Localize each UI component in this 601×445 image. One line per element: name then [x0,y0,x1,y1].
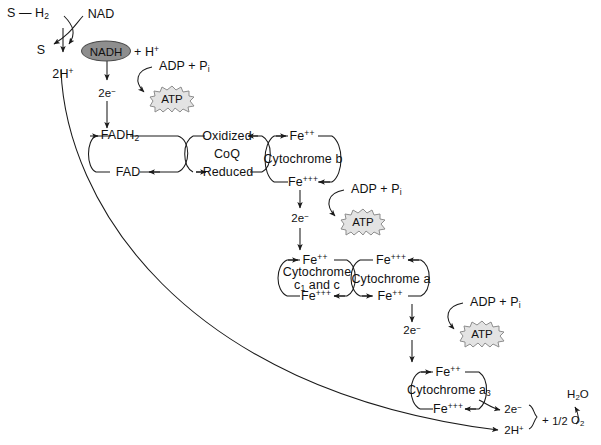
etc-diagram-canvas: S — H2 NAD S NADH + H+ 2H+ 2e− ADP + Pi … [0,0,601,445]
label-nad: NAD [88,8,115,21]
label-adp-pi-3: ADP + Pi [470,296,521,309]
atp-label-1: ATP [150,86,194,112]
label-half-oxygen: + 1/2 O2 [542,415,585,428]
label-2e-final: 2e− [504,404,522,416]
curve-coq-left [185,136,193,172]
label-plus-h: + H+ [134,45,159,58]
label-coq: CoQ [214,148,240,161]
curve-2h-plus-to-terminal [61,70,498,430]
label-cytochrome-c-line1: Cytochrome [283,266,351,279]
label-coq-reduced: Reduced [203,166,254,179]
label-water: H2O [567,389,589,402]
nadh-badge: NADH [81,41,131,62]
atp-badge-2: ATP [341,209,385,235]
label-cyta-fe3: Fe+++ [376,253,406,266]
label-2h-plus-top: 2H+ [52,67,73,80]
label-cytochrome-b: Cytochrome b [263,153,342,166]
label-cytc-fe3: Fe+++ [301,289,331,302]
label-cyta3-fe3: Fe+++ [433,402,463,415]
label-2h-final: 2H+ [504,425,524,437]
label-cytb-fe3: Fe+++ [288,175,318,188]
label-cytochrome-a: Cytochrome a [351,273,430,286]
label-cytochrome-a3: Cytochrome a3 [407,384,491,397]
atp-badge-3: ATP [460,321,504,347]
atp-label-3: ATP [460,321,504,347]
label-2e-2: 2e− [291,213,309,225]
arrow-nad-to-s [54,16,83,44]
label-2e-3: 2e− [403,325,421,337]
label-2e-1: 2e− [98,88,116,100]
label-cyta3-fe2: Fe++ [436,365,461,378]
label-fadh2: FADH2 [101,129,140,142]
label-cyta-fe2: Fe++ [378,289,403,302]
label-substrate-h2: S — H2 [7,7,49,20]
fraction-one-half: 1/2 [552,416,568,427]
label-cytb-fe2: Fe++ [290,129,315,142]
label-adp-pi-2: ADP + Pi [351,183,402,196]
label-fad: FAD [116,166,141,179]
brace-products [529,405,537,429]
atp-label-2: ATP [341,209,385,235]
atp-badge-1: ATP [150,86,194,112]
label-coq-oxidized: Oxidized [202,130,251,143]
curve-fadh2-to-oxidized [178,136,188,172]
label-substrate: S [37,44,45,57]
label-adp-pi-1: ADP + Pi [159,60,210,73]
